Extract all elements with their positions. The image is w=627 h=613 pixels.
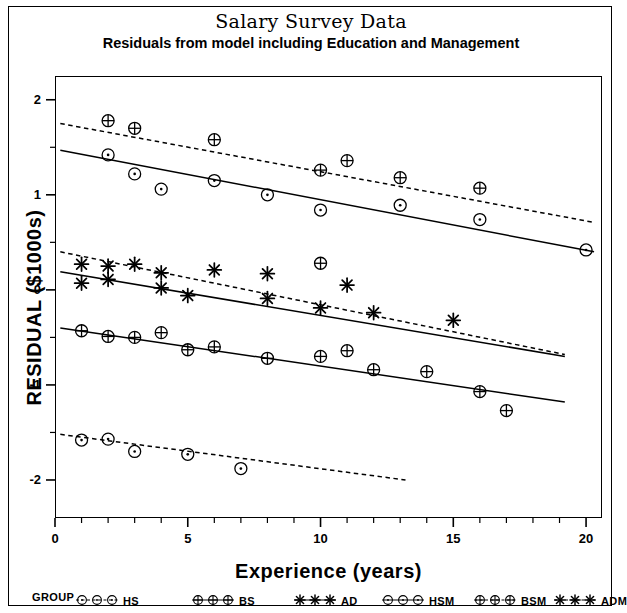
legend: GROUP HSBSADHSMBSMADM (14, 590, 608, 606)
legend-symbol (325, 595, 335, 605)
marker-dot (417, 599, 419, 601)
y-tick-label: 0 (7, 282, 41, 297)
legend-marker-circle-cross (474, 592, 516, 608)
legend-label: BS (239, 595, 255, 607)
y-axis-label: RESIDUAL ($1000s) (23, 98, 46, 518)
legend-symbol (295, 595, 305, 605)
legend-entry-ad[interactable]: AD (294, 590, 358, 606)
legend-label: HS (123, 595, 139, 607)
legend-marker-circle-dot (76, 592, 118, 608)
marker-dot (387, 599, 389, 601)
legend-marker-asterisk (554, 592, 596, 608)
y-tick-label: 1 (7, 187, 41, 202)
marker-dot (402, 599, 404, 601)
y-tick-label: -1 (7, 377, 41, 392)
legend-entry-bs[interactable]: BS (192, 590, 255, 606)
legend-symbol (224, 595, 233, 604)
x-tick-label: 15 (433, 531, 473, 546)
x-tick-label: 20 (566, 531, 606, 546)
legend-label: ADM (601, 595, 627, 607)
legend-symbol (570, 595, 580, 605)
legend-title: GROUP (32, 591, 74, 603)
marker-dot (111, 599, 113, 601)
legend-symbol (476, 595, 485, 604)
legend-entry-hsm[interactable]: HSM (382, 590, 455, 606)
legend-symbol (310, 595, 320, 605)
legend-marker-asterisk (294, 592, 336, 608)
chart-subtitle: Residuals from model including Education… (0, 35, 622, 51)
legend-symbol (506, 595, 515, 604)
legend-entry-adm[interactable]: ADM (554, 590, 627, 606)
marker-dot (81, 599, 83, 601)
chart-title: Salary Survey Data (0, 10, 622, 32)
x-tick-label: 0 (35, 531, 75, 546)
legend-symbol (209, 595, 218, 604)
legend-symbol (194, 595, 203, 604)
marker-dot (96, 599, 98, 601)
legend-marker-circle-dot (382, 592, 424, 608)
x-tick-label: 10 (301, 531, 341, 546)
plot-area (55, 76, 602, 518)
y-tick-label: 2 (7, 92, 41, 107)
y-tick-label: -2 (7, 472, 41, 487)
x-tick-label: 5 (168, 531, 208, 546)
legend-label: BSM (521, 595, 547, 607)
x-axis-label: Experience (years) (55, 560, 602, 583)
legend-symbol (585, 595, 595, 605)
legend-marker-circle-cross (192, 592, 234, 608)
legend-symbol (491, 595, 500, 604)
legend-label: AD (341, 595, 358, 607)
legend-symbol (555, 595, 565, 605)
legend-label: HSM (429, 595, 455, 607)
legend-entry-bsm[interactable]: BSM (474, 590, 547, 606)
legend-entry-hs[interactable]: HS (76, 590, 139, 606)
